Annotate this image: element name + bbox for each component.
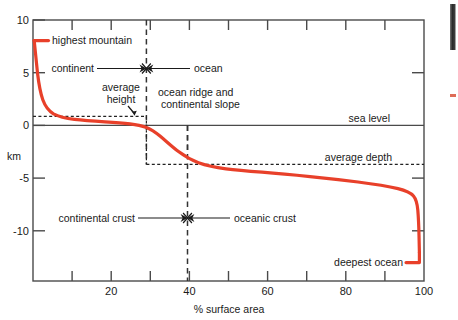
y-tick-label-neg10: -10 <box>13 225 29 237</box>
deepest-ocean-marker <box>406 252 419 262</box>
continent-ocean-divider <box>97 64 190 74</box>
y-tick-label-5: 5 <box>23 67 29 79</box>
annotation-ocean: ocean <box>194 62 223 74</box>
y-axis-title: km <box>7 150 21 162</box>
x-axis-title: % surface area <box>194 303 265 315</box>
y-axis-tick-labels: 10 5 0 -5 -10 <box>13 14 29 237</box>
average-height-arrow <box>128 106 137 116</box>
y-tick-label-0: 0 <box>23 119 29 131</box>
page-edge-artifact-red <box>450 94 456 97</box>
annotation-average-depth: average depth <box>325 151 392 163</box>
annotation-average-height-line2: height <box>107 93 136 105</box>
x-tick-label-60: 60 <box>261 285 273 297</box>
x-tick-label-20: 20 <box>105 285 117 297</box>
page-edge-artifact-dark <box>450 4 456 50</box>
x-axis-tick-labels: 20 40 60 80 100 <box>105 285 433 297</box>
x-tick-label-100: 100 <box>415 285 433 297</box>
annotation-highest-mountain: highest mountain <box>52 34 132 46</box>
annotation-continent: continent <box>51 62 94 74</box>
hypsometric-chart: 10 5 0 -5 -10 km <box>0 0 458 320</box>
annotation-oceanic-crust: oceanic crust <box>234 212 296 224</box>
hypsometric-curve-figure: 10 5 0 -5 -10 km <box>0 0 458 320</box>
annotation-deepest-ocean: deepest ocean <box>334 256 403 268</box>
annotation-ocean-ridge-line2: continental slope <box>161 98 240 110</box>
y-tick-label-neg5: -5 <box>19 172 29 184</box>
crust-divider <box>138 213 230 223</box>
annotation-continental-crust: continental crust <box>59 212 136 224</box>
x-tick-label-40: 40 <box>183 285 195 297</box>
annotation-average-height-line1: average <box>102 81 140 93</box>
y-tick-label-10: 10 <box>17 14 29 26</box>
annotation-sea-level: sea level <box>349 112 390 124</box>
x-tick-label-80: 80 <box>340 285 352 297</box>
annotation-ocean-ridge-line1: ocean ridge and <box>158 86 233 98</box>
